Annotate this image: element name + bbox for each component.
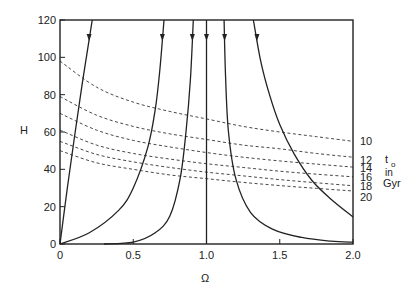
x-tick-label: 0.5	[126, 249, 141, 261]
x-tick-label: 1.0	[199, 249, 214, 261]
trajectory-2-arrow-icon	[160, 34, 165, 41]
y-tick-label: 100	[38, 51, 56, 63]
trajectory-3	[104, 20, 193, 244]
y-axis-label: H	[20, 124, 28, 136]
x-tick-label: 1.5	[272, 249, 287, 261]
y-tick-label: 40	[44, 163, 56, 175]
trajectory-1-arrow-icon	[87, 34, 92, 41]
series-label-20: 20	[360, 191, 372, 203]
series-label-18: 18	[360, 180, 372, 192]
y-tick-label: 80	[44, 89, 56, 101]
trajectory-3-arrow-icon	[190, 34, 195, 41]
series-label-10: 10	[360, 135, 372, 147]
y-axis: 020406080100120	[38, 14, 65, 250]
trajectory-6-arrow-icon	[254, 34, 259, 41]
y-tick-label: 60	[44, 126, 56, 138]
trajectory-6	[253, 20, 353, 217]
legend-title-t: t	[385, 153, 388, 165]
trajectory-5	[224, 20, 353, 242]
series-labels: 101214161820	[360, 135, 372, 203]
x-tick-label: 0	[57, 249, 63, 261]
y-tick-label: 0	[50, 238, 56, 250]
x-axis-label: Ω	[201, 272, 209, 284]
legend-title: t o in Gyr	[383, 153, 401, 189]
chart: 00.51.01.52.0 020406080100120 Ω H 101214…	[0, 0, 418, 297]
legend-title-gyr: Gyr	[383, 177, 401, 189]
x-axis: 00.51.01.52.0	[57, 239, 361, 261]
x-tick-label: 2.0	[345, 249, 360, 261]
trajectory-4-arrow-icon	[204, 34, 209, 41]
trajectory-5-arrow-icon	[222, 34, 227, 41]
y-tick-label: 120	[38, 14, 56, 26]
y-tick-label: 20	[44, 201, 56, 213]
solid-lines	[60, 20, 353, 244]
